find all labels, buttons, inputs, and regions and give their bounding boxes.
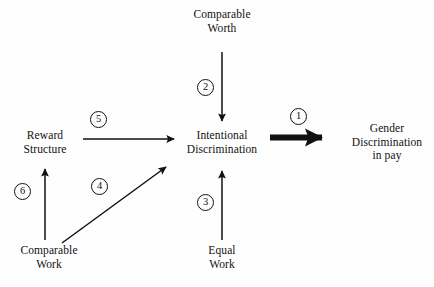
node-comparable-worth-line2: Worth [166, 22, 278, 36]
arrow-label-1: 1 [290, 108, 307, 125]
node-gender-discrimination-line2: Discrimination [340, 136, 434, 150]
node-gender-discrimination-line3: in pay [340, 149, 434, 163]
arrow-label-2: 2 [197, 79, 214, 96]
node-comparable-work-line1: Comparable [4, 244, 94, 258]
node-gender-discrimination-in-pay: Gender Discrimination in pay [340, 122, 434, 163]
node-intentional-discrimination: Intentional Discrimination [172, 129, 272, 156]
node-equal-work-line2: Work [187, 258, 257, 272]
node-comparable-worth: Comparable Worth [166, 8, 278, 35]
node-comparable-worth-line1: Comparable [166, 8, 278, 22]
node-equal-work-line1: Equal [187, 244, 257, 258]
node-reward-structure-line1: Reward [4, 129, 86, 143]
node-comparable-work-line2: Work [4, 258, 94, 272]
arrow-label-4: 4 [91, 178, 108, 195]
arrow-label-3: 3 [197, 194, 214, 211]
arrow-4-line [62, 167, 166, 243]
node-comparable-work: Comparable Work [4, 244, 94, 271]
arrow-label-6: 6 [14, 183, 31, 200]
node-equal-work: Equal Work [187, 244, 257, 271]
node-reward-structure: Reward Structure [4, 129, 86, 156]
node-intentional-discrimination-line2: Discrimination [172, 143, 272, 157]
node-intentional-discrimination-line1: Intentional [172, 129, 272, 143]
arrow-label-5: 5 [90, 111, 107, 128]
node-reward-structure-line2: Structure [4, 143, 86, 157]
node-gender-discrimination-line1: Gender [340, 122, 434, 136]
causal-diagram: Comparable Worth Reward Structure Intent… [0, 0, 434, 287]
